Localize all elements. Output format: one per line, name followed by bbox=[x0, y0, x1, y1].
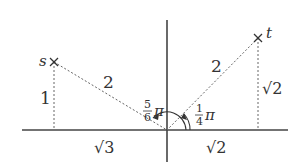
angle-t-label: 1 4 π bbox=[195, 102, 216, 128]
s-label: s bbox=[39, 52, 47, 70]
s-base-label: √3 bbox=[94, 138, 114, 157]
s-marker-icon bbox=[50, 58, 58, 66]
t-marker-icon bbox=[254, 34, 262, 42]
svg-text:6: 6 bbox=[144, 111, 151, 124]
s-height-label: 1 bbox=[40, 88, 51, 108]
svg-text:5: 5 bbox=[144, 98, 151, 111]
svg-text:π: π bbox=[204, 106, 216, 124]
t-base-label: √2 bbox=[206, 138, 226, 157]
t-hyp-label: 2 bbox=[211, 56, 222, 76]
svg-text:1: 1 bbox=[196, 102, 203, 115]
diagram: s t 2 1 √3 2 √2 √2 5 6 π 1 4 π bbox=[0, 0, 302, 165]
t-height-label: √2 bbox=[262, 79, 282, 98]
svg-text:π: π bbox=[153, 102, 165, 120]
svg-text:4: 4 bbox=[196, 115, 203, 128]
s-hyp-label: 2 bbox=[103, 72, 114, 92]
t-label: t bbox=[266, 24, 273, 42]
angle-s-label: 5 6 π bbox=[143, 98, 165, 124]
